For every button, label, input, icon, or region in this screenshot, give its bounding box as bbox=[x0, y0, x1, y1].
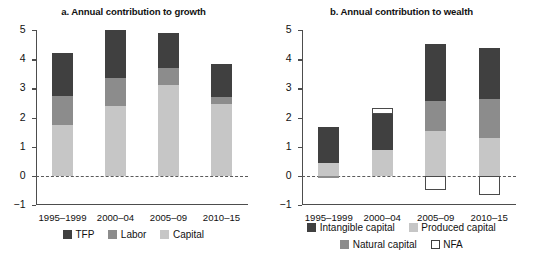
bar-segment bbox=[372, 114, 393, 150]
panel-b-legend: Intangible capitalProduced capital Natur… bbox=[268, 219, 535, 252]
legend-item[interactable]: Produced capital bbox=[409, 220, 496, 235]
bar-segment bbox=[479, 138, 500, 176]
bar-column[interactable]: 2005–09 bbox=[158, 30, 178, 205]
bar-column[interactable]: 2010–15 bbox=[211, 30, 231, 205]
y-tick-label: 3 bbox=[286, 81, 292, 93]
panel-a-growth: a. Annual contribution to growth 543210−… bbox=[0, 0, 267, 267]
y-tick-label: −1 bbox=[280, 198, 292, 210]
bar-segment bbox=[479, 99, 500, 138]
bar-segment bbox=[211, 104, 231, 175]
bar-segment bbox=[372, 150, 393, 176]
legend-item[interactable]: Capital bbox=[160, 227, 204, 242]
bar-segment bbox=[425, 44, 446, 101]
bar-segment bbox=[425, 101, 446, 130]
bar-segment bbox=[158, 33, 178, 68]
bar-segment bbox=[479, 48, 500, 99]
bar-segment bbox=[158, 85, 178, 175]
y-tick: −1 bbox=[32, 205, 37, 206]
x-axis-category-label: 2010–15 bbox=[203, 212, 240, 223]
bar-segment bbox=[479, 176, 500, 195]
legend-label: Capital bbox=[173, 229, 204, 240]
bar-segment bbox=[211, 97, 231, 104]
bar-segment bbox=[52, 96, 72, 125]
legend-swatch-icon bbox=[431, 240, 440, 249]
legend-swatch-icon bbox=[160, 230, 169, 239]
panel-b-plot-area: 543210−1 1995–19992000–042005–092010–15 bbox=[302, 30, 516, 205]
y-tick-label: 0 bbox=[286, 169, 292, 181]
y-tick-label: 4 bbox=[286, 52, 292, 64]
legend-label: TFP bbox=[75, 229, 94, 240]
bar-column[interactable]: 1995–1999 bbox=[318, 30, 339, 205]
y-tick-label: 1 bbox=[286, 140, 292, 152]
panel-a-plot-area: 543210−1 1995–19992000–042005–092010–15 bbox=[36, 30, 248, 205]
legend-label: Labor bbox=[121, 229, 147, 240]
bar-segment bbox=[105, 78, 125, 106]
figure: a. Annual contribution to growth 543210−… bbox=[0, 0, 535, 267]
panel-b-wealth: b. Annual contribution to wealth 543210−… bbox=[268, 0, 535, 267]
legend-label: Natural capital bbox=[353, 239, 417, 250]
y-tick-label: 2 bbox=[286, 111, 292, 123]
bar-column[interactable]: 2005–09 bbox=[425, 30, 446, 205]
panel-a-title: a. Annual contribution to growth bbox=[0, 6, 267, 17]
y-tick-label: 2 bbox=[20, 111, 26, 123]
legend-item[interactable]: TFP bbox=[63, 227, 94, 242]
panel-b-legend-row-1: Intangible capitalProduced capital bbox=[268, 219, 535, 235]
legend-label: NFA bbox=[443, 239, 462, 250]
x-axis-category-label: 2000–04 bbox=[97, 212, 134, 223]
bar-segment bbox=[211, 64, 231, 98]
bar-column[interactable]: 2000–04 bbox=[105, 30, 125, 205]
y-tick-label: 0 bbox=[20, 169, 26, 181]
legend-swatch-icon bbox=[63, 230, 72, 239]
bar-segment bbox=[52, 53, 72, 95]
bar-segment bbox=[372, 108, 393, 114]
legend-label: Intangible capital bbox=[320, 222, 395, 233]
bar-segment bbox=[52, 125, 72, 176]
bar-segment bbox=[425, 131, 446, 176]
legend-label: Produced capital bbox=[421, 222, 496, 233]
panel-b-legend-row-2: Natural capitalNFA bbox=[268, 235, 535, 251]
y-tick-label: 5 bbox=[286, 23, 292, 35]
panel-a-legend-row: TFPLaborCapital bbox=[0, 226, 267, 242]
y-tick-label: −1 bbox=[14, 198, 26, 210]
legend-swatch-icon bbox=[307, 223, 316, 232]
panel-a-bars: 1995–19992000–042005–092010–15 bbox=[36, 30, 248, 205]
y-tick-label: 4 bbox=[20, 52, 26, 64]
bar-segment bbox=[158, 68, 178, 86]
legend-swatch-icon bbox=[340, 240, 349, 249]
bar-column[interactable]: 2010–15 bbox=[479, 30, 500, 205]
bar-segment bbox=[318, 176, 339, 178]
y-tick: −1 bbox=[298, 205, 303, 206]
bar-segment bbox=[105, 30, 125, 78]
bar-segment bbox=[425, 176, 446, 191]
bar-column[interactable]: 2000–04 bbox=[372, 30, 393, 205]
legend-item[interactable]: Intangible capital bbox=[307, 220, 395, 235]
bar-segment bbox=[318, 163, 339, 176]
legend-swatch-icon bbox=[108, 230, 117, 239]
y-tick-label: 1 bbox=[20, 140, 26, 152]
legend-item[interactable]: Labor bbox=[108, 227, 146, 242]
legend-swatch-icon bbox=[409, 223, 418, 232]
legend-item[interactable]: Natural capital bbox=[340, 237, 416, 252]
bar-segment bbox=[105, 106, 125, 176]
bar-segment bbox=[318, 127, 339, 163]
panel-a-legend: TFPLaborCapital bbox=[0, 226, 267, 242]
y-tick-label: 3 bbox=[20, 81, 26, 93]
x-axis-category-label: 2005–09 bbox=[150, 212, 187, 223]
legend-item[interactable]: NFA bbox=[431, 237, 463, 252]
x-axis-category-label: 1995–1999 bbox=[38, 212, 86, 223]
panel-b-title: b. Annual contribution to wealth bbox=[268, 6, 535, 17]
panel-b-bars: 1995–19992000–042005–092010–15 bbox=[302, 30, 516, 205]
y-tick-label: 5 bbox=[20, 23, 26, 35]
bar-column[interactable]: 1995–1999 bbox=[52, 30, 72, 205]
